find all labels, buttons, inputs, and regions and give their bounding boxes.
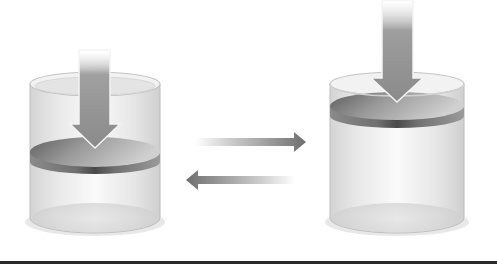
right-cylinder xyxy=(325,0,469,236)
arrow-right-icon xyxy=(195,132,306,152)
arrow-left-icon xyxy=(186,170,295,190)
equilibrium-arrows xyxy=(186,132,306,190)
left-cylinder-base xyxy=(32,203,158,233)
diagram-canvas xyxy=(0,0,497,264)
right-cylinder-base xyxy=(332,203,462,233)
left-cylinder xyxy=(25,50,165,236)
